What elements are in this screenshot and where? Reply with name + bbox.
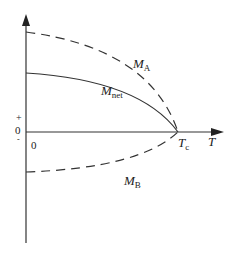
curve-m-a bbox=[26, 32, 178, 132]
critical-temperature-label: Tc bbox=[178, 136, 189, 152]
curve-label-m-a: MA bbox=[133, 57, 150, 73]
y-plus-sign: + bbox=[16, 113, 22, 123]
curve-label-m-b: MB bbox=[124, 174, 141, 190]
diagram-canvas: + 0 - 0 Tc T MA Mnet MB bbox=[0, 0, 238, 255]
y-axis-arrow-icon bbox=[22, 14, 30, 26]
x-axis-label: T bbox=[208, 135, 215, 148]
origin-label: 0 bbox=[31, 140, 37, 151]
plot-graphics bbox=[0, 0, 238, 255]
y-minus-sign: - bbox=[17, 136, 20, 144]
curve-m-net bbox=[26, 73, 178, 132]
curve-m-b bbox=[26, 132, 178, 172]
curve-label-m-net: Mnet bbox=[101, 84, 123, 100]
